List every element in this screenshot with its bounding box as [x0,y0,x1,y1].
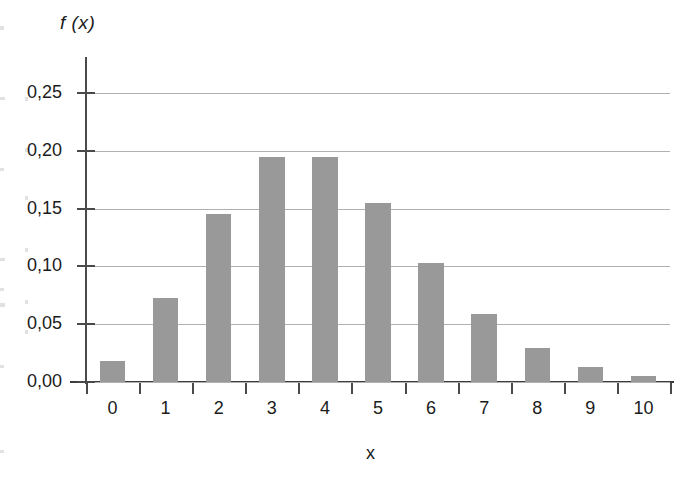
x-axis-tick-label: 7 [458,398,510,419]
bar-series: 012345678910 [86,93,670,382]
x-axis-tick-label: 0 [87,398,139,419]
x-axis-tick-label: 1 [140,398,192,419]
bar [578,367,603,382]
x-axis-tick [564,383,566,394]
x-axis-tick-label: 2 [193,398,245,419]
plot-area: 0,250,200,150,100,050,00 012345678910 [86,93,670,382]
x-axis-tick [405,383,407,394]
x-axis-tick [86,383,88,394]
y-axis-tick-label: 0,25 [0,82,62,103]
y-axis-label: f (x) [60,12,95,34]
x-axis-tick-label: 10 [617,398,669,419]
scan-artifact [0,288,4,291]
x-axis-tick [617,383,619,394]
scan-artifact [0,168,4,171]
scan-artifact [0,26,4,30]
bar [365,203,390,382]
scan-artifact [25,300,28,304]
bar-category [458,93,511,382]
bar [312,157,337,382]
bar-category [405,93,458,382]
x-axis-tick [192,383,194,394]
bar-category [617,93,670,382]
x-axis-tick [670,383,672,394]
bar-category [139,93,192,382]
x-axis-tick-label: 6 [405,398,457,419]
x-axis-label-text: x [366,443,375,464]
bar [525,348,550,382]
bar-category [192,93,245,382]
bar-category [298,93,351,382]
scan-artifact [0,303,5,307]
bar [100,361,125,382]
x-axis-tick [139,383,141,394]
x-axis-tick-label: 9 [564,398,616,419]
bar-category [511,93,564,382]
bar [471,314,496,382]
x-axis-tick [298,383,300,394]
y-axis-tick-label: 0,20 [0,140,62,161]
bar [631,376,656,382]
x-axis-tick-label: 4 [299,398,351,419]
x-axis-tick [351,383,353,394]
y-axis-tick-label: 0,10 [0,255,62,276]
x-axis-tick [511,383,513,394]
chart-figure: f (x) 0,250,200,150,100,050,00 012345678… [0,0,686,488]
bar-category [564,93,617,382]
bar-category [86,93,139,382]
scan-artifact [0,365,4,368]
gridline [86,382,670,383]
x-axis-tick-label: 3 [246,398,298,419]
x-axis-tick-label: 5 [352,398,404,419]
bar-category [351,93,404,382]
y-axis-tick-label: 0,15 [0,198,62,219]
bar-category [245,93,298,382]
y-axis-tick-label: 0,00 [0,371,62,392]
bar [153,298,178,382]
x-axis-label: x [0,443,686,464]
scan-artifact [25,248,28,252]
bar [206,214,231,382]
x-axis-tick [245,383,247,394]
bar [259,157,284,382]
y-axis-tick-label: 0,05 [0,313,62,334]
x-axis-tick [458,383,460,394]
bar [418,263,443,382]
x-axis-tick-label: 8 [511,398,563,419]
